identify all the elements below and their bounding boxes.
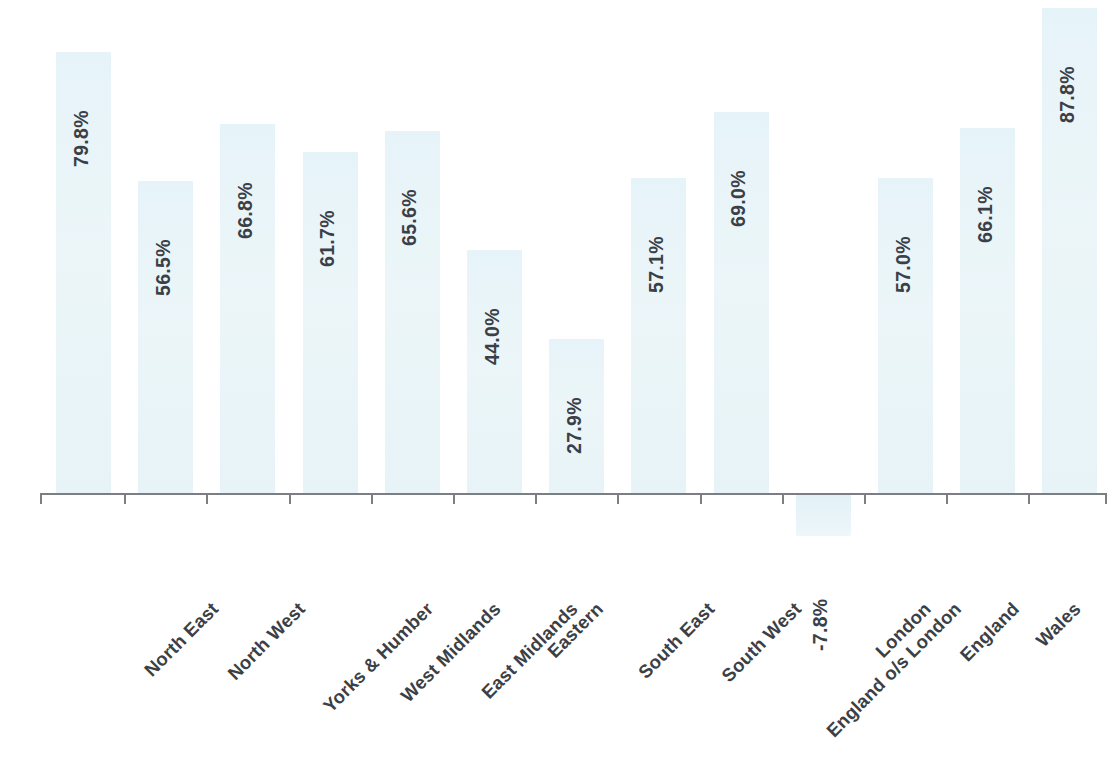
axis-tick bbox=[700, 493, 702, 504]
bar-value-label: 66.8% bbox=[234, 182, 257, 239]
axis-tick bbox=[289, 493, 291, 504]
category-label: West Midlands bbox=[397, 598, 506, 707]
bar-chart: 79.8%56.5%66.8%61.7%65.6%44.0%27.9%57.1%… bbox=[0, 0, 1114, 762]
axis-tick bbox=[535, 493, 537, 504]
bar-value-label: 56.5% bbox=[152, 239, 175, 296]
bar[interactable] bbox=[467, 250, 522, 493]
category-label: South East bbox=[634, 598, 719, 683]
axis-tick bbox=[782, 493, 784, 504]
bar[interactable] bbox=[960, 128, 1015, 493]
bar-value-label: 87.8% bbox=[1056, 66, 1079, 123]
category-label: North East bbox=[139, 598, 222, 681]
category-label: North West bbox=[223, 598, 309, 684]
category-label: England bbox=[955, 598, 1023, 666]
axis-tick bbox=[946, 493, 948, 504]
category-label: South West bbox=[717, 598, 806, 687]
bar-value-label: 57.1% bbox=[645, 236, 668, 293]
bar[interactable] bbox=[303, 152, 358, 493]
bar-value-label: 61.7% bbox=[316, 210, 339, 267]
bar[interactable] bbox=[138, 181, 193, 493]
bar[interactable] bbox=[220, 124, 275, 493]
bar-value-label: 69.0% bbox=[727, 170, 750, 227]
axis-tick bbox=[1028, 493, 1030, 504]
bar-value-label: 65.6% bbox=[398, 189, 421, 246]
category-label: London bbox=[872, 598, 936, 662]
bar[interactable] bbox=[631, 178, 686, 493]
axis-tick bbox=[864, 493, 866, 504]
category-label: East Midlands bbox=[477, 598, 582, 703]
bar-value-label: -7.8% bbox=[809, 599, 832, 651]
category-label: England o/s London bbox=[822, 598, 966, 742]
axis-end-cap bbox=[40, 493, 42, 504]
axis-tick bbox=[206, 493, 208, 504]
axis-tick bbox=[617, 493, 619, 504]
bar-value-label: 79.8% bbox=[70, 110, 93, 167]
category-label: Wales bbox=[1031, 598, 1085, 652]
bar[interactable] bbox=[714, 112, 769, 493]
axis-end-cap bbox=[1105, 493, 1107, 504]
axis-tick bbox=[371, 493, 373, 504]
bar[interactable] bbox=[385, 131, 440, 493]
bar[interactable] bbox=[878, 178, 933, 493]
plot-area: 79.8%56.5%66.8%61.7%65.6%44.0%27.9%57.1%… bbox=[0, 0, 1114, 600]
bar-value-label: 66.1% bbox=[974, 186, 997, 243]
category-label: Eastern bbox=[543, 598, 608, 663]
category-label: Yorks & Humber bbox=[319, 598, 438, 717]
axis-tick bbox=[453, 493, 455, 504]
axis-tick bbox=[124, 493, 126, 504]
bar[interactable] bbox=[796, 493, 851, 536]
bar-value-label: 44.0% bbox=[481, 308, 504, 365]
bar-value-label: 27.9% bbox=[563, 397, 586, 454]
bar-value-label: 57.0% bbox=[892, 236, 915, 293]
